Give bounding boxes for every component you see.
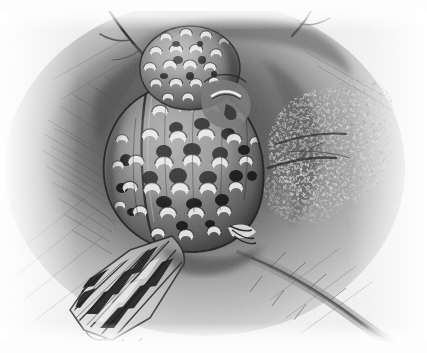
artwork-canvas: Roosting Owl in Tree Hollow graphite and… [0, 0, 427, 353]
vignette-right [349, 0, 427, 353]
owl-illustration [0, 0, 427, 353]
vignette-left [0, 0, 78, 353]
vignette-bottom-solid [0, 341, 427, 353]
vignette-top-solid [0, 0, 427, 11]
